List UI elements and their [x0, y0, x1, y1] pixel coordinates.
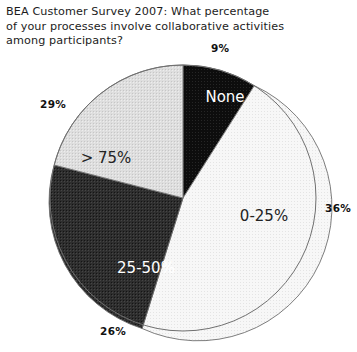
pie-chart-canvas [0, 0, 357, 352]
pie-chart: BEA Customer Survey 2007: What percentag… [0, 0, 357, 352]
